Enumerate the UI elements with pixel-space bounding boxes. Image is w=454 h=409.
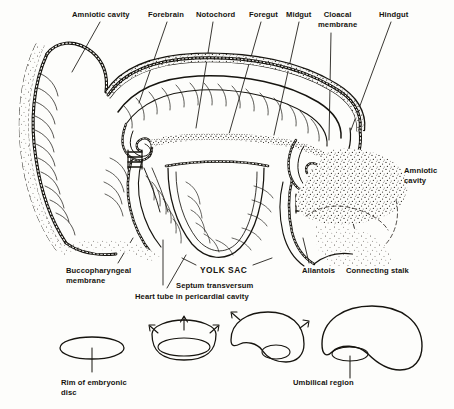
label-heart-tube: Heart tube in pericardial cavity bbox=[135, 292, 249, 301]
stage-3-deepening-fold bbox=[231, 312, 309, 362]
label-buccopharyngeal-membrane: Buccopharyngeal membrane bbox=[66, 266, 131, 285]
label-umbilical-region: Umbilical region bbox=[293, 378, 354, 387]
label-yolk-sac: YOLK SAC bbox=[200, 266, 247, 275]
figure-artwork bbox=[0, 0, 454, 409]
label-allantois: Allantois bbox=[302, 266, 335, 275]
label-amniotic-cavity-right: Amniotic cavity bbox=[404, 166, 437, 185]
stage-4-umbilical-closure bbox=[322, 306, 422, 378]
label-rim-of-embryonic-disc: Rim of embryonic disc bbox=[61, 378, 127, 397]
label-midgut: Midgut bbox=[286, 10, 311, 19]
embryology-figure: Amniotic cavity Forebrain Notochord Fore… bbox=[0, 0, 454, 409]
label-amniotic-cavity-top: Amniotic cavity bbox=[72, 10, 130, 19]
label-septum-transversum: Septum transversum bbox=[176, 281, 253, 290]
hatching-yolk-sac bbox=[186, 182, 273, 255]
hatching-dome bbox=[124, 83, 319, 141]
main-section-artwork bbox=[19, 43, 407, 266]
label-hindgut: Hindgut bbox=[379, 10, 408, 19]
label-notochord: Notochord bbox=[196, 10, 235, 19]
label-forebrain: Forebrain bbox=[148, 10, 184, 19]
label-foregut: Foregut bbox=[249, 10, 278, 19]
label-cloacal-membrane: Cloacal membrane bbox=[318, 10, 357, 29]
stage-2-folding-cup bbox=[149, 316, 219, 360]
hatching-head-fold bbox=[104, 158, 181, 243]
stage-1-flat-disc bbox=[60, 337, 124, 372]
label-connecting-stalk: Connecting stalk bbox=[346, 266, 409, 275]
